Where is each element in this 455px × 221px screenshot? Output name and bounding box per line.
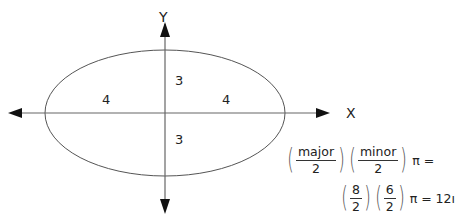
formula-result: π = 12ı (410, 191, 455, 206)
fraction-numerator: 6 (384, 183, 396, 199)
left-paren-icon: ( (341, 184, 348, 212)
fraction-denominator: 2 (386, 199, 394, 214)
fraction-numerator: major (296, 145, 336, 161)
fraction-eight-halves: 8 2 (350, 183, 362, 214)
y-axis-down-arrow-icon (160, 199, 170, 214)
left-paren-icon: ( (349, 146, 356, 174)
fraction-numerator: minor (358, 145, 398, 161)
fraction-major: major 2 (296, 145, 336, 176)
fraction-six-halves: 6 2 (384, 183, 396, 214)
x-axis-left-arrow-icon (8, 108, 22, 118)
semi-major-label-right: 4 (222, 93, 230, 106)
formula-line-1: ( major 2 ) ( minor 2 ) π = (285, 145, 434, 176)
semi-minor-label-bottom: 3 (175, 133, 183, 146)
formula-line-2: ( 8 2 ) ( 6 2 ) π = 12ı (339, 183, 455, 214)
fraction-minor: minor 2 (358, 145, 398, 176)
semi-minor-label-top: 3 (175, 74, 183, 87)
x-axis-right-arrow-icon (316, 108, 330, 118)
right-paren-icon: ) (400, 146, 407, 174)
fraction-denominator: 2 (352, 199, 360, 214)
x-axis-label: X (346, 106, 356, 120)
formula-tail: π = (412, 153, 434, 168)
fraction-denominator: 2 (312, 161, 320, 176)
left-paren-icon: ( (375, 184, 382, 212)
left-paren-icon: ( (287, 146, 294, 174)
y-axis-label: Y (159, 10, 168, 24)
right-paren-icon: ) (398, 184, 405, 212)
right-paren-icon: ) (364, 184, 371, 212)
semi-major-label-left: 4 (102, 93, 110, 106)
fraction-numerator: 8 (350, 183, 362, 199)
fraction-denominator: 2 (374, 161, 382, 176)
right-paren-icon: ) (338, 146, 345, 174)
